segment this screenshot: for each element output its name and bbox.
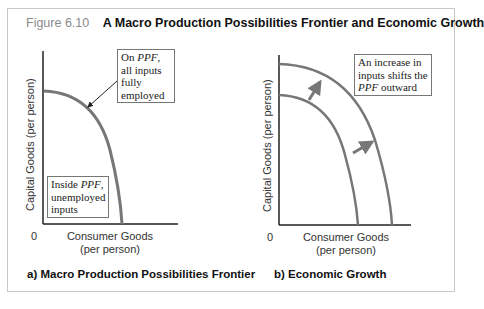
panel-a-pointer-arrow	[88, 81, 117, 107]
panel-a-note-on-ppf: On PPF, all inputs fully employed	[117, 49, 175, 103]
panel-b-caption: b) Economic Growth	[274, 268, 386, 280]
panel-b-origin-label: 0	[267, 231, 273, 244]
panel-b-inner-ppf	[279, 95, 358, 225]
panel-a-y-axis-label: Capital Goods (per person)	[24, 78, 36, 211]
panel-b-shift-arrow-2	[353, 142, 372, 153]
panel-a-origin-label: 0	[31, 230, 37, 243]
panel-a-x-axis-label: Consumer Goods (per person)	[60, 230, 160, 256]
panel-b-y-axis-label: Capital Goods (per person)	[261, 79, 273, 212]
panel-b-note-shift: An increase in inputs shifts the PPF out…	[354, 54, 432, 96]
panel-b-shift-arrow-1	[309, 82, 320, 100]
panel-b-x-axis-label: Consumer Goods (per person)	[296, 231, 396, 257]
panel-a-caption: a) Macro Production Possibilities Fronti…	[27, 268, 255, 280]
panel-a-note-inside-ppf: Inside PPF, unemployed inputs	[47, 176, 109, 218]
